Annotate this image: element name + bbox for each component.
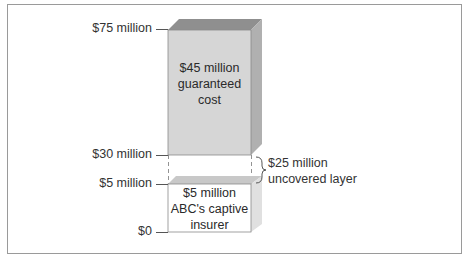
captive-side-face <box>251 176 262 232</box>
tick-30 <box>156 155 168 156</box>
tick-75 <box>156 29 168 30</box>
captive-line2: ABC's captive <box>168 201 251 217</box>
guaranteed-cost-side-face <box>251 19 262 155</box>
captive-top-face <box>168 176 262 184</box>
uncovered-layer-label: $25 million uncovered layer <box>268 155 357 187</box>
captive-insurer-label: $5 million ABC's captive insurer <box>168 185 251 233</box>
guaranteed-cost-line3: cost <box>168 92 251 108</box>
guaranteed-cost-line2: guaranteed <box>168 76 251 92</box>
axis-label-5: $5 million <box>32 176 152 190</box>
captive-amount: $5 million <box>168 185 251 201</box>
uncovered-amount: $25 million <box>268 155 357 171</box>
axis-label-75: $75 million <box>32 21 152 35</box>
tick-5 <box>156 184 168 185</box>
axis-label-30: $30 million <box>32 147 152 161</box>
guaranteed-cost-label: $45 million guaranteed cost <box>168 60 251 108</box>
uncovered-description: uncovered layer <box>268 171 357 187</box>
captive-line3: insurer <box>168 217 251 233</box>
tick-0 <box>156 232 168 233</box>
guaranteed-cost-top-face <box>168 19 262 30</box>
axis-label-0: $0 <box>32 224 152 238</box>
guaranteed-cost-amount: $45 million <box>168 60 251 76</box>
